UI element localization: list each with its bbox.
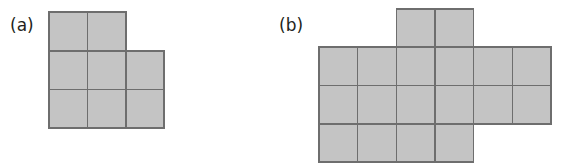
grid-cell (126, 89, 164, 128)
grid-cell (87, 89, 125, 128)
grid-cell (396, 124, 435, 162)
grid-cell (87, 12, 125, 51)
grid-cell (358, 124, 397, 162)
grid-cell (512, 86, 551, 124)
grid-cell (358, 47, 397, 85)
grid-cell (49, 12, 87, 51)
grid-cell (396, 9, 435, 47)
grid-cell (435, 47, 474, 85)
panel-b-label: (b) (279, 15, 303, 35)
grid-cell (49, 89, 87, 128)
panel-a-label: (a) (10, 15, 34, 35)
grid-cell (319, 47, 358, 85)
grid-cell (126, 51, 164, 90)
grid-cell (396, 47, 435, 85)
grid-cell (435, 9, 474, 47)
figure-canvas: (a) (b) (0, 0, 565, 167)
grid-cell (358, 86, 397, 124)
grid-cell (435, 86, 474, 124)
grid-cell (474, 86, 513, 124)
grid-cell (474, 47, 513, 85)
grid-cell (87, 51, 125, 90)
grid-cell (512, 47, 551, 85)
grid-cell (49, 51, 87, 90)
grid-cell (396, 86, 435, 124)
grid-cell (319, 86, 358, 124)
grid-cell (435, 124, 474, 162)
grid-cell (319, 124, 358, 162)
